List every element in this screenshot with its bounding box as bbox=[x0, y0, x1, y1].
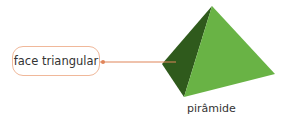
pyramid-caption: pirâmide bbox=[187, 102, 236, 115]
face-label-text: face triangular bbox=[14, 54, 98, 68]
leader-dot bbox=[101, 60, 105, 64]
face-label: face triangular bbox=[12, 46, 100, 76]
